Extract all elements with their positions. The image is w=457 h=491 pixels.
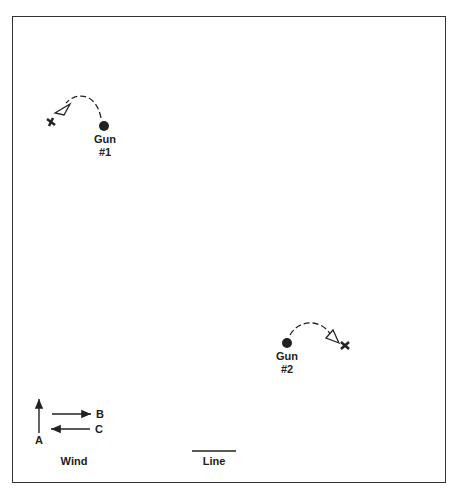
wind-arrow-b-label: B [94,408,106,421]
gun-1-label: Gun #1 [90,133,120,159]
diagram-drawing [0,0,457,491]
gun-1-number: #1 [90,146,120,159]
gun-2-number: #2 [272,363,302,376]
gun-1-name: Gun [90,133,120,146]
wind-arrow-c-label: C [93,423,105,436]
gun-2-impact-x-icon [341,342,349,349]
wind-legend-arrows [39,399,91,433]
line-label: Line [196,455,232,468]
gun-1-impact-x-icon [47,118,55,126]
gun-2-trajectory [290,323,330,335]
gun-2-group [282,323,349,349]
gun-1-group [47,96,109,131]
gun-1-marker [99,121,109,131]
gun-2-name: Gun [272,350,302,363]
gun-2-marker [282,338,292,348]
gun-2-label: Gun #2 [272,350,302,376]
gun-1-trajectory [66,96,101,118]
gun-1-arrowhead-icon [55,104,70,115]
wind-arrow-a-label: A [33,434,45,447]
wind-label: Wind [52,455,96,468]
